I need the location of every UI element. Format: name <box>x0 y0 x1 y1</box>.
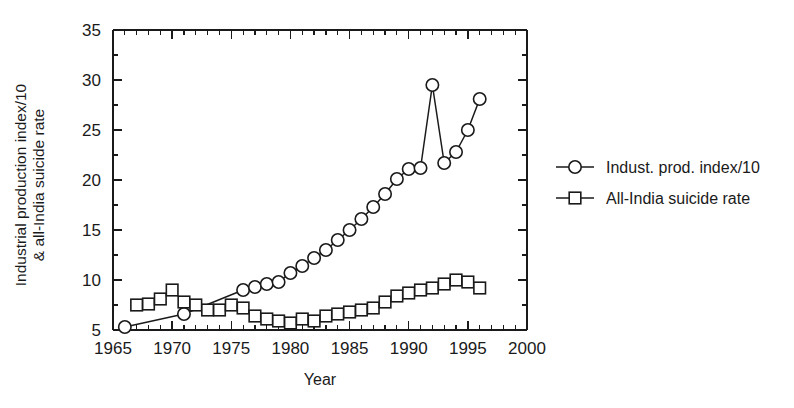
data-point <box>367 201 379 213</box>
data-point <box>462 276 474 288</box>
data-point <box>296 260 308 272</box>
data-point <box>214 304 226 316</box>
data-point <box>474 282 486 294</box>
y-axis-title-line1: Industrial production index/10 <box>12 83 29 286</box>
data-point <box>178 296 190 308</box>
data-point <box>343 224 355 236</box>
data-point <box>166 284 178 296</box>
data-point <box>143 298 155 310</box>
data-point <box>379 188 391 200</box>
data-point <box>414 162 426 174</box>
data-point <box>155 293 167 305</box>
y-axis-title-line2: & all-India suicide rate <box>30 109 47 262</box>
data-point <box>272 276 284 288</box>
x-tick-label-1985: 1985 <box>331 339 369 358</box>
data-point <box>178 308 190 320</box>
data-point <box>379 296 391 308</box>
y-tick-label-25: 25 <box>82 121 101 140</box>
data-point <box>190 299 202 311</box>
data-point <box>332 308 344 320</box>
data-point <box>427 282 439 294</box>
data-point <box>438 278 450 290</box>
data-point <box>332 234 344 246</box>
x-tick-label-1995: 1995 <box>449 339 487 358</box>
data-point <box>237 284 249 296</box>
y-tick-label-10: 10 <box>82 271 101 290</box>
chart-figure: Industrial production index/10 & all-Ind… <box>0 0 794 408</box>
data-point <box>308 252 320 264</box>
y-tick-label-5: 5 <box>92 321 101 340</box>
data-point <box>391 173 403 185</box>
data-point <box>367 302 379 314</box>
data-point <box>308 315 320 327</box>
data-point <box>450 274 462 286</box>
data-point <box>285 317 297 329</box>
y-tick-label-20: 20 <box>82 171 101 190</box>
y-axis-title: Industrial production index/10 & all-Ind… <box>12 83 47 286</box>
x-axis-title: Year <box>304 371 337 388</box>
x-tick-label-1965: 1965 <box>94 339 132 358</box>
data-point <box>284 267 296 279</box>
data-point <box>202 304 214 316</box>
data-point <box>273 315 285 327</box>
y-tick-label-30: 30 <box>82 71 101 90</box>
legend-square-icon <box>569 192 581 204</box>
data-point <box>119 321 131 333</box>
data-point <box>473 93 485 105</box>
data-point <box>403 287 415 299</box>
data-point <box>426 79 438 91</box>
x-tick-label-1970: 1970 <box>153 339 191 358</box>
data-point <box>320 310 332 322</box>
y-tick-label-35: 35 <box>82 21 101 40</box>
data-point <box>403 163 415 175</box>
legend-label: Indust. prod. index/10 <box>606 159 760 176</box>
data-point <box>391 290 403 302</box>
data-point <box>356 304 368 316</box>
data-point <box>320 244 332 256</box>
data-point <box>415 284 427 296</box>
x-tick-label-1980: 1980 <box>272 339 310 358</box>
x-tick-label-2000: 2000 <box>508 339 546 358</box>
data-point <box>462 124 474 136</box>
data-point <box>131 299 143 311</box>
legend-circle-icon <box>569 161 581 173</box>
data-point <box>261 313 273 325</box>
x-tick-label-1975: 1975 <box>212 339 250 358</box>
data-point <box>237 302 249 314</box>
data-point <box>249 281 261 293</box>
x-tick-label-1990: 1990 <box>390 339 428 358</box>
legend-label: All-India suicide rate <box>606 190 750 207</box>
data-point <box>450 146 462 158</box>
data-point <box>225 299 237 311</box>
data-point <box>355 213 367 225</box>
data-point <box>261 278 273 290</box>
data-point <box>344 306 356 318</box>
industrial-production-suicide-rate-chart: Industrial production index/10 & all-Ind… <box>0 0 794 408</box>
data-point <box>249 310 261 322</box>
data-point <box>296 313 308 325</box>
y-tick-label-15: 15 <box>82 221 101 240</box>
data-point <box>438 157 450 169</box>
